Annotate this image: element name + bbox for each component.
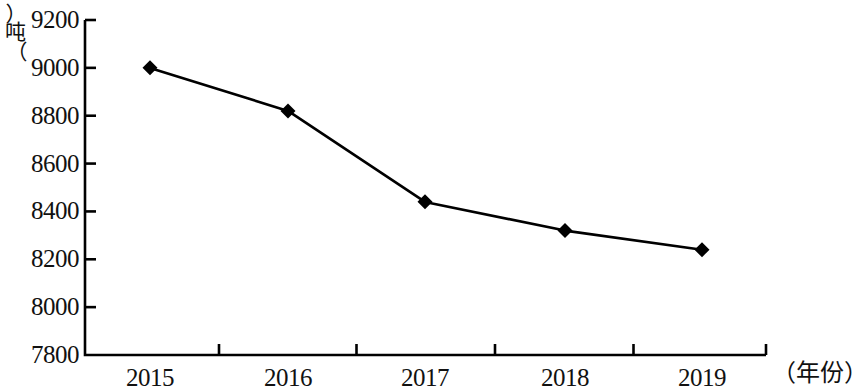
x-axis-tick-label: 2015 xyxy=(105,365,195,390)
y-axis-tick-label: 7800 xyxy=(3,342,79,367)
data-line xyxy=(150,68,702,250)
x-axis-tick-label: 2017 xyxy=(380,365,470,390)
y-axis-tick-label: 9200 xyxy=(3,7,79,32)
axis-lines xyxy=(85,20,766,355)
x-axis-tick-label: 2019 xyxy=(657,365,747,390)
y-axis-tick-label: 9000 xyxy=(3,55,79,80)
x-axis-tick-label: 2016 xyxy=(243,365,333,390)
data-markers xyxy=(143,60,710,257)
y-axis-tick-label: 8000 xyxy=(3,294,79,319)
y-axis-ticks xyxy=(85,68,96,307)
y-axis-tick-label: 8600 xyxy=(3,151,79,176)
y-axis-tick-label: 8400 xyxy=(3,198,79,223)
y-axis-tick-label: 8800 xyxy=(3,103,79,128)
x-axis-tick-label: 2018 xyxy=(520,365,610,390)
x-axis-ticks xyxy=(219,344,634,355)
y-axis-tick-label: 8200 xyxy=(3,246,79,271)
